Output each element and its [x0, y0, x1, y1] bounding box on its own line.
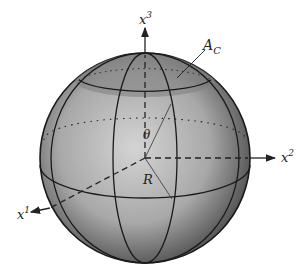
sphere-diagram: x3 x2 x1 AC θ R	[0, 0, 305, 275]
radius-label: R	[142, 172, 153, 187]
cap-area-label: AC	[201, 37, 221, 56]
x3-label: x3	[139, 10, 152, 27]
x2-label: x2	[281, 148, 294, 165]
x1-axis	[31, 208, 50, 212]
x1-label: x1	[17, 205, 30, 222]
theta-label: θ	[143, 128, 151, 142]
